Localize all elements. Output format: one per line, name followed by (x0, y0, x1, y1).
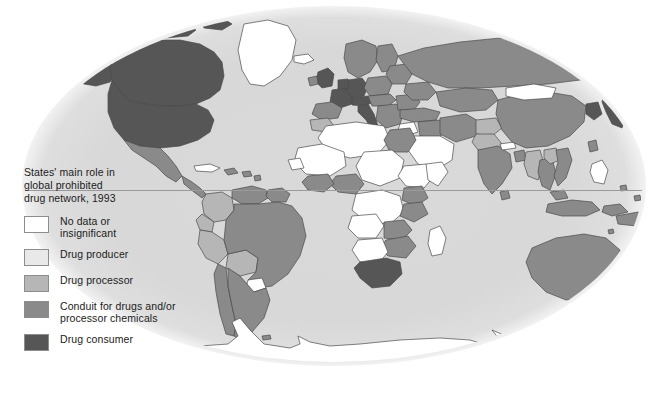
country-new-zealand (640, 284, 662, 312)
aleutian-islands (18, 80, 56, 93)
legend-swatch-no-data (24, 216, 49, 233)
legend-item-drug-processor[interactable]: Drug processor (24, 274, 224, 292)
legend-item-no-data[interactable]: No data or insignificant (24, 215, 224, 240)
legend-label-conduit: Conduit for drugs and/or processor chemi… (60, 300, 176, 325)
legend-swatch-drug-processor (24, 275, 49, 292)
legend-label-drug-processor: Drug processor (60, 274, 133, 287)
country-canada (110, 40, 224, 106)
legend-item-drug-consumer[interactable]: Drug consumer (24, 333, 224, 351)
map-figure: States' main role in global prohibited d… (0, 0, 668, 395)
country-bangladesh (514, 150, 526, 162)
map-legend: States' main role in global prohibited d… (24, 166, 224, 359)
island-falklands (262, 335, 271, 340)
legend-swatch-conduit (24, 301, 49, 318)
island-taiwan (588, 140, 598, 152)
legend-label-drug-consumer: Drug consumer (60, 333, 133, 346)
country-alaska (66, 52, 116, 86)
country-netherlands-belgium (338, 79, 349, 89)
country-srilanka (500, 190, 510, 200)
legend-item-conduit[interactable]: Conduit for drugs and/or processor chemi… (24, 300, 224, 325)
legend-title: States' main role in global prohibited d… (24, 166, 224, 206)
island-tasmania (594, 302, 608, 314)
legend-swatch-drug-consumer (24, 334, 49, 351)
country-poland (364, 76, 392, 96)
country-ireland (308, 76, 318, 86)
legend-label-drug-producer: Drug producer (60, 248, 128, 261)
legend-swatch-drug-producer (24, 249, 49, 266)
legend-item-drug-producer[interactable]: Drug producer (24, 248, 224, 266)
country-venezuela (232, 186, 268, 204)
legend-items: No data or insignificant Drug producer D… (24, 215, 224, 351)
legend-label-no-data: No data or insignificant (60, 215, 116, 240)
russia-siberia-east (554, 38, 620, 68)
